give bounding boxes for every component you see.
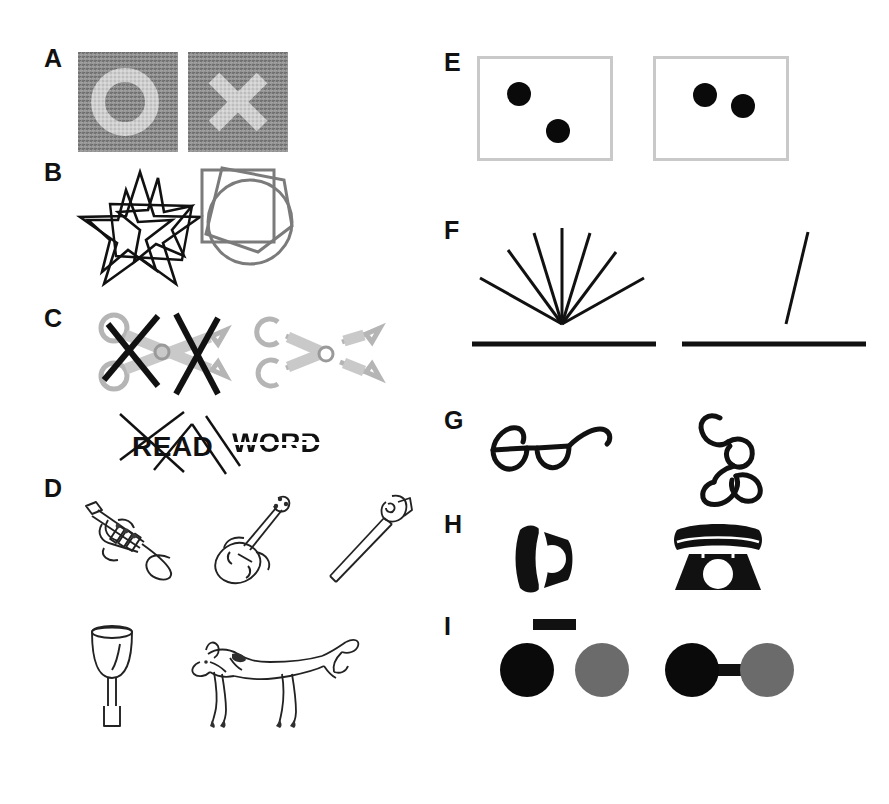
panel-label-i: I [444,614,451,639]
figure-canvas: A [0,0,889,804]
panel-f-stimulus-fan [466,216,666,351]
panel-a-stimulus-x [188,52,288,152]
panel-e-dot [507,82,531,106]
panel-e-box-left [477,56,613,161]
panel-label-d: D [44,476,62,501]
panel-d-object-saw [318,490,418,590]
panel-a-stimulus-o [78,52,178,152]
panel-c-word-word-group: WORD [230,418,360,466]
panel-d-object-chimera [186,628,366,728]
panel-c-stimulus-scissors-fragmented [248,310,388,398]
panel-i-gray-circle [575,643,629,697]
panel-e-dot [693,83,717,107]
panel-i-separate-bar [533,619,576,630]
panel-g-stimulus-glasses-canonical [485,412,625,482]
panel-b-stimulus-stars [88,160,208,280]
panel-h-stimulus-phone-rotated [510,512,600,602]
panel-e-box-right [653,56,789,161]
panel-g-stimulus-glasses-unusual [672,406,802,506]
panel-f-stimulus-single-line [676,216,876,351]
panel-label-b: B [44,160,62,185]
panel-label-a: A [44,46,62,71]
panel-h-stimulus-phone-upright [663,512,773,602]
panel-i-stimulus-unconnected [490,614,640,704]
panel-label-e: E [444,50,461,75]
panel-c-word-word: WORD [232,427,321,458]
panel-d-object-wine-glass [78,620,158,730]
panel-d-object-violin [200,490,310,590]
panel-label-f: F [444,218,459,243]
panel-d-object-trumpet [78,496,198,586]
panel-e-dot [731,94,755,118]
panel-i-black-circle [500,643,554,697]
panel-c-stimulus-scissors-occluded [92,308,232,400]
panel-e-dot [546,119,570,143]
panel-b-stimulus-geometric [192,164,312,284]
panel-label-h: H [444,512,462,537]
panel-i-stimulus-connected [655,614,805,704]
panel-label-g: G [444,408,463,433]
panel-i-gray-circle [740,643,794,697]
panel-label-c: C [44,306,62,331]
panel-i-black-circle [665,643,719,697]
